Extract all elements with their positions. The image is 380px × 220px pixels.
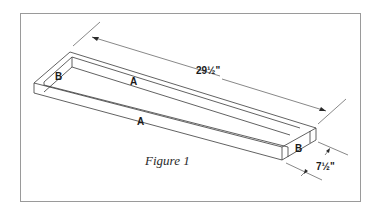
length-dimension: 29½": [73, 22, 346, 124]
label-a-front: A: [137, 116, 144, 127]
length-dimension-label: 29½": [196, 65, 220, 76]
label-a-back: A: [130, 76, 137, 87]
box-frame-drawing: 29½" 7½" B A A B Figure 1: [0, 0, 380, 220]
arrowhead-right-icon: [319, 107, 326, 111]
label-b-right: B: [295, 143, 302, 154]
label-b-left: B: [55, 71, 62, 82]
arrowhead-left-icon: [92, 37, 99, 41]
arrowhead-up-icon: [326, 148, 330, 153]
width-dimension-label: 7½": [316, 161, 335, 172]
figure-caption: Figure 1: [144, 153, 190, 168]
figure-1-diagram: 29½" 7½" B A A B Figure 1: [0, 0, 380, 220]
left-end-b: [34, 52, 72, 92]
